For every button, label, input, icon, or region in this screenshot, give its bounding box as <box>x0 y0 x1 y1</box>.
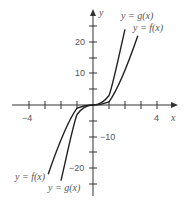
label-f-bottom: y = f(x) <box>14 171 46 183</box>
plot-area: −4 4 x y 20 10 −10 −20 y = g(x) y = f(x)… <box>0 0 184 203</box>
x-axis-arrow-icon <box>171 102 178 108</box>
x-tick-label-neg4: −4 <box>22 113 32 123</box>
label-g-bottom: y = g(x) <box>47 182 81 194</box>
label-f-top: y = f(x) <box>132 22 164 34</box>
y-tick-label-neg20: −20 <box>69 163 84 173</box>
y-tick-label-neg10: −10 <box>100 132 115 142</box>
x-tick-label-4: 4 <box>154 113 159 123</box>
y-tick-label-20: 20 <box>75 37 85 47</box>
y-axis-label: y <box>98 7 104 18</box>
x-axis-label: x <box>170 112 176 123</box>
cubic-functions-graph: −4 4 x y 20 10 −10 −20 y = g(x) y = f(x)… <box>0 0 184 203</box>
label-g-top: y = g(x) <box>120 10 154 22</box>
y-tick-label-10: 10 <box>75 68 85 78</box>
y-axis-arrow-icon <box>90 9 96 16</box>
